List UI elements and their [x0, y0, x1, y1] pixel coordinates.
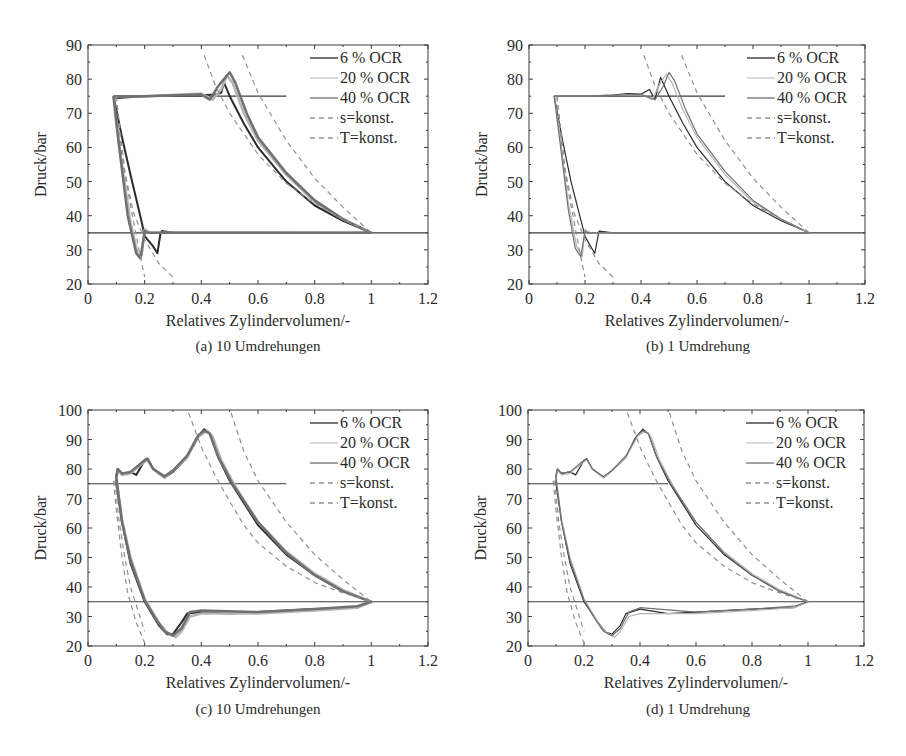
panel-b: 00.20.40.60.811.22030405060708090Relativ… [0, 0, 906, 380]
panel-d: 00.20.40.60.811.22030405060708090100Rela… [0, 380, 906, 756]
y-tick-label: 40 [507, 208, 523, 225]
y-tick-label: 20 [507, 276, 523, 293]
caption-d: (d) 1 Umdrehung [528, 701, 868, 718]
x-tick-label: 0.8 [743, 290, 763, 307]
chart-d: 00.20.40.60.811.22030405060708090100Rela… [0, 380, 906, 756]
x-tick-label: 0.2 [574, 652, 594, 669]
legend-label: 20 % OCR [777, 69, 848, 86]
legend-label: 40 % OCR [777, 89, 848, 106]
series-line [553, 481, 584, 643]
y-tick-label: 100 [498, 402, 522, 419]
legend-label: 20 % OCR [776, 434, 847, 451]
x-axis-label: Relatives Zylindervolumen/- [604, 674, 788, 692]
x-tick-label: 1.2 [854, 652, 874, 669]
series-line [554, 74, 809, 257]
x-tick-label: 0.8 [742, 652, 762, 669]
x-tick-label: 1 [804, 652, 812, 669]
y-tick-label: 70 [507, 105, 523, 122]
caption-b: (b) 1 Umdrehung [528, 338, 868, 355]
legend-label: s=konst. [776, 474, 830, 491]
y-tick-label: 50 [507, 174, 523, 191]
x-tick-label: 1 [805, 290, 813, 307]
series-line [556, 431, 808, 636]
x-tick-label: 0 [525, 290, 533, 307]
legend-label: s=konst. [777, 109, 831, 126]
series-line [556, 429, 808, 634]
y-tick-label: 80 [506, 461, 522, 478]
y-tick-label: 60 [506, 520, 522, 537]
y-tick-label: 20 [506, 638, 522, 655]
y-tick-label: 60 [507, 139, 523, 156]
series-line [556, 431, 808, 637]
series-line [554, 77, 809, 253]
x-tick-label: 0.6 [687, 290, 707, 307]
y-tick-label: 90 [507, 37, 523, 54]
x-tick-label: 0.4 [631, 290, 651, 307]
y-tick-label: 70 [506, 491, 522, 508]
y-axis-label: Druck/bar [473, 131, 490, 197]
y-tick-label: 40 [506, 579, 522, 596]
x-tick-label: 0 [524, 652, 532, 669]
chart-b: 00.20.40.60.811.22030405060708090Relativ… [0, 0, 906, 380]
y-axis-label: Druck/bar [472, 495, 489, 561]
x-tick-label: 0.2 [575, 290, 595, 307]
x-tick-label: 0.4 [630, 652, 650, 669]
legend-label: 40 % OCR [776, 454, 847, 471]
series-line [554, 72, 809, 256]
x-axis-label: Relatives Zylindervolumen/- [605, 312, 789, 330]
series-line [557, 96, 585, 277]
legend-label: T=konst. [776, 494, 833, 511]
y-tick-label: 80 [507, 71, 523, 88]
y-tick-label: 30 [506, 609, 522, 626]
legend-label: 6 % OCR [777, 49, 840, 66]
legend-label: T=konst. [777, 129, 834, 146]
y-tick-label: 50 [506, 550, 522, 567]
x-tick-label: 0.6 [686, 652, 706, 669]
y-tick-label: 30 [507, 242, 523, 259]
y-tick-label: 90 [506, 432, 522, 449]
x-tick-label: 1.2 [855, 290, 875, 307]
legend-label: 6 % OCR [776, 414, 839, 431]
